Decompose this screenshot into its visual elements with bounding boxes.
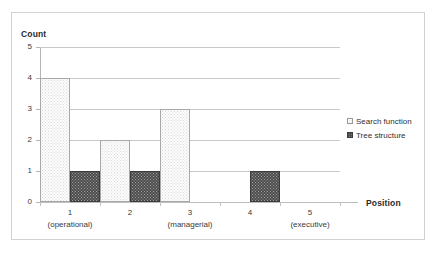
y-tick-label: 3 [6, 105, 32, 113]
gridline [40, 202, 340, 203]
x-tick-mark [40, 202, 41, 206]
bar-search-function-2 [100, 140, 130, 202]
bar-tree-structure-4 [250, 171, 280, 202]
x-tick-mark [340, 202, 341, 206]
x-tick-label: 3 [160, 208, 220, 217]
y-tick-label: 1 [6, 167, 32, 175]
legend-item: Tree structure [347, 128, 412, 142]
chart-canvas: Count 012345 1(operational)23(managerial… [0, 0, 441, 257]
gridline [40, 140, 340, 141]
x-tick-label: 5 [280, 208, 340, 217]
x-tick-mark [220, 202, 221, 206]
x-tick-label: 2 [100, 208, 160, 217]
bar-search-function-3 [160, 109, 190, 202]
x-axis-title: Position [366, 198, 401, 208]
x-tick-sublabel: (operational) [30, 220, 110, 229]
x-tick-label: 1 [40, 208, 100, 217]
y-tick-label: 4 [6, 74, 32, 82]
bar-tree-structure-1 [70, 171, 100, 202]
legend-swatch-icon [347, 118, 353, 124]
gridline [40, 109, 340, 110]
x-tick-label: 4 [220, 208, 280, 217]
gridline [40, 78, 340, 79]
x-tick-mark [100, 202, 101, 206]
bar-search-function-1 [40, 78, 70, 202]
x-tick-sublabel: (managerial) [150, 220, 230, 229]
legend-label: Search function [356, 117, 412, 126]
x-tick-mark [160, 202, 161, 206]
legend-label: Tree structure [356, 131, 406, 140]
gridline [40, 47, 340, 48]
bar-tree-structure-2 [130, 171, 160, 202]
y-tick-label: 2 [6, 136, 32, 144]
plot-area [40, 47, 340, 202]
x-tick-sublabel: (executive) [270, 220, 350, 229]
y-axis-title: Count [21, 29, 46, 39]
legend-item: Search function [347, 114, 412, 128]
x-tick-mark [280, 202, 281, 206]
chart-legend: Search functionTree structure [347, 114, 412, 142]
y-tick-label: 5 [6, 43, 32, 51]
legend-swatch-icon [347, 132, 353, 138]
y-tick-label: 0 [6, 198, 32, 206]
